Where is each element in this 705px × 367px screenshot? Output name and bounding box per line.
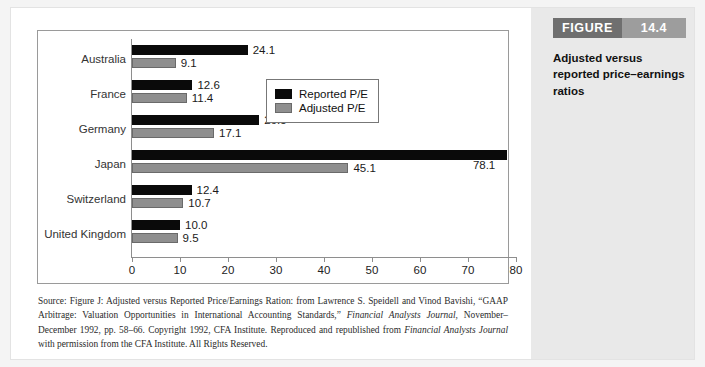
bar-chart-plot: 01020304050607080 Australia24.19.1France… bbox=[38, 31, 510, 285]
x-tick-mark bbox=[132, 257, 133, 262]
legend-label-reported: Reported P/E bbox=[299, 88, 368, 100]
bar-value-label: 78.1 bbox=[473, 159, 495, 171]
x-tick-label: 50 bbox=[366, 264, 379, 276]
bar-reported bbox=[132, 185, 192, 195]
legend-row-adjusted: Adjusted P/E bbox=[275, 102, 368, 114]
source-italic-journal-2: Financial Analysts Journal bbox=[404, 325, 508, 335]
bar-value-label: 11.4 bbox=[192, 92, 214, 104]
bar-value-label: 10.0 bbox=[185, 219, 207, 231]
bar-group: Switzerland12.410.7 bbox=[38, 185, 510, 208]
bar-reported bbox=[132, 80, 192, 90]
legend-label-adjusted: Adjusted P/E bbox=[299, 102, 365, 114]
bar-adjusted bbox=[132, 198, 183, 208]
bar-group: Australia24.19.1 bbox=[38, 45, 510, 68]
figure-caption: Adjusted versus reported price–earnings … bbox=[553, 50, 685, 99]
chart-box: 01020304050607080 Australia24.19.1France… bbox=[37, 30, 509, 284]
source-italic-journal-1: Financial Analysts Journal, bbox=[347, 310, 458, 320]
bar-adjusted bbox=[132, 233, 178, 243]
x-tick-mark bbox=[372, 257, 373, 262]
x-tick-label: 80 bbox=[510, 264, 523, 276]
x-tick-label: 40 bbox=[318, 264, 331, 276]
bar-value-label: 17.1 bbox=[219, 127, 241, 139]
bar-adjusted bbox=[132, 93, 187, 103]
x-tick-mark bbox=[516, 257, 517, 262]
page-background: 01020304050607080 Australia24.19.1France… bbox=[0, 0, 705, 367]
caption-column: FIGURE 14.4 Adjusted versus reported pri… bbox=[531, 8, 694, 359]
figure-tag-word: FIGURE bbox=[553, 18, 622, 38]
x-tick-mark bbox=[420, 257, 421, 262]
bar-group: Japan78.145.1 bbox=[38, 150, 510, 173]
bar-adjusted bbox=[132, 58, 176, 68]
bar-reported bbox=[132, 115, 259, 125]
x-tick-label: 10 bbox=[174, 264, 187, 276]
source-note: Source: Figure J: Adjusted versus Report… bbox=[38, 294, 508, 351]
source-text-tail: with permission from the CFA Institute. … bbox=[38, 339, 268, 349]
bar-group: United Kingdom10.09.5 bbox=[38, 220, 510, 243]
bar-reported bbox=[132, 150, 507, 160]
x-tick-label: 70 bbox=[462, 264, 475, 276]
bar-adjusted bbox=[132, 128, 214, 138]
category-label: France bbox=[38, 88, 126, 100]
category-label: United Kingdom bbox=[38, 228, 126, 240]
bar-value-label: 45.1 bbox=[353, 162, 375, 174]
figure-tag-number: 14.4 bbox=[622, 18, 686, 38]
x-tick-label: 0 bbox=[129, 264, 135, 276]
figure-card: 01020304050607080 Australia24.19.1France… bbox=[11, 8, 694, 359]
bar-reported bbox=[132, 45, 248, 55]
bar-value-label: 10.7 bbox=[188, 197, 210, 209]
x-tick-mark bbox=[324, 257, 325, 262]
figure-tag: FIGURE 14.4 bbox=[553, 18, 686, 38]
legend-row-reported: Reported P/E bbox=[275, 88, 368, 100]
category-label: Japan bbox=[38, 158, 126, 170]
x-tick-label: 60 bbox=[414, 264, 427, 276]
chart-legend: Reported P/E Adjusted P/E bbox=[266, 79, 379, 123]
bar-value-label: 12.4 bbox=[197, 184, 219, 196]
bar-value-label: 24.1 bbox=[253, 44, 275, 56]
x-tick-mark bbox=[468, 257, 469, 262]
legend-swatch-reported bbox=[275, 89, 292, 99]
x-tick-mark bbox=[180, 257, 181, 262]
category-label: Switzerland bbox=[38, 193, 126, 205]
bar-value-label: 12.6 bbox=[197, 79, 219, 91]
bar-value-label: 9.1 bbox=[181, 57, 197, 69]
chart-column: 01020304050607080 Australia24.19.1France… bbox=[11, 8, 531, 359]
legend-swatch-adjusted bbox=[275, 103, 292, 113]
bar-reported bbox=[132, 220, 180, 230]
x-tick-mark bbox=[228, 257, 229, 262]
x-tick-label: 20 bbox=[222, 264, 235, 276]
bar-adjusted bbox=[132, 163, 348, 173]
bar-value-label: 9.5 bbox=[183, 232, 199, 244]
category-label: Germany bbox=[38, 123, 126, 135]
x-tick-mark bbox=[276, 257, 277, 262]
x-tick-label: 30 bbox=[270, 264, 283, 276]
category-label: Australia bbox=[38, 53, 126, 65]
